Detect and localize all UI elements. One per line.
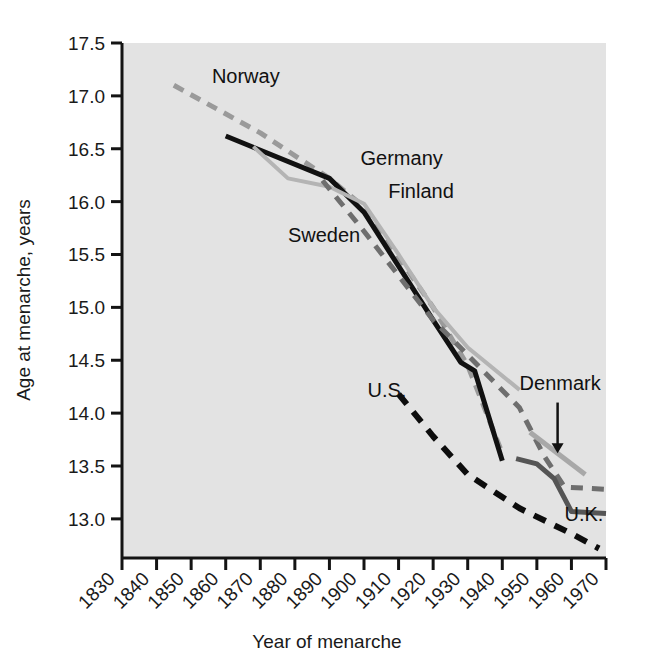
series-label-denmark: Denmark — [520, 372, 602, 394]
series-label-sweden: Sweden — [288, 224, 360, 246]
series-label-germany: Germany — [361, 147, 443, 169]
series-label-finland: Finland — [388, 180, 454, 202]
plot-area-background — [122, 43, 606, 558]
y-tick-label: 15.0 — [68, 297, 105, 318]
y-tick-label: 14.0 — [68, 403, 105, 424]
plot-background — [122, 43, 606, 558]
y-axis-title: Age at menarche, years — [13, 199, 34, 401]
series-label-uk: U.K. — [565, 503, 604, 525]
series-label-norway: Norway — [212, 65, 280, 87]
series-label-us: U.S. — [367, 379, 406, 401]
chart-container: 13.013.514.014.515.015.516.016.517.017.5… — [0, 0, 655, 664]
y-tick-label: 14.5 — [68, 350, 105, 371]
y-tick-label: 16.5 — [68, 139, 105, 160]
menarche-age-line-chart: 13.013.514.014.515.015.516.016.517.017.5… — [0, 0, 655, 664]
y-tick-label: 16.0 — [68, 192, 105, 213]
y-tick-label: 13.0 — [68, 509, 105, 530]
y-tick-label: 15.5 — [68, 244, 105, 265]
y-tick-label: 17.0 — [68, 86, 105, 107]
x-axis-title: Year of menarche — [252, 631, 401, 652]
y-tick-label: 13.5 — [68, 456, 105, 477]
y-tick-label: 17.5 — [68, 33, 105, 54]
